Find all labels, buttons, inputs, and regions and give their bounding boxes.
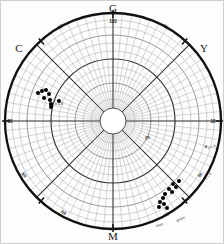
grid-spoke <box>126 93 218 118</box>
grid-spoke <box>44 131 105 204</box>
data-point <box>48 98 52 102</box>
grid-spoke <box>120 33 174 111</box>
grid-spoke <box>5 112 100 120</box>
grid-spoke <box>44 38 105 111</box>
grid-spoke <box>5 122 100 130</box>
data-point <box>167 187 171 191</box>
chart-annotation: blue <box>156 222 164 228</box>
data-point <box>36 91 40 95</box>
grid-spoke <box>126 124 218 149</box>
data-point <box>157 205 161 209</box>
grid-spoke <box>85 134 110 226</box>
center-hub-circle <box>100 108 126 134</box>
grid-spoke <box>123 52 196 113</box>
data-point <box>174 185 178 189</box>
grid-spoke <box>117 20 149 109</box>
grid-spoke <box>114 13 122 108</box>
grid-spoke <box>9 124 101 149</box>
chart-annotation: n = 8 <box>55 102 63 106</box>
cardinal-label-m: M <box>108 230 118 242</box>
grid-spoke <box>121 38 182 111</box>
grid-spoke <box>123 129 196 190</box>
polar-chromaticity-diagram: 10050505010050505050050 n = 9n = 9bluegr… <box>1 1 224 244</box>
grid-spoke <box>124 128 202 182</box>
axis-tick-label: 100 <box>109 19 117 24</box>
chart-canvas: 10050505010050505050050 n = 9n = 9bluegr… <box>0 0 224 244</box>
grid-spoke <box>117 133 149 222</box>
grid-spoke <box>25 128 103 182</box>
data-point <box>161 196 165 200</box>
grid-spoke <box>104 134 112 229</box>
grid-spoke <box>114 134 122 229</box>
grid-spoke <box>51 132 105 210</box>
grid-spoke <box>125 125 214 157</box>
grid-spoke <box>30 52 103 113</box>
grid-spoke <box>125 84 214 116</box>
data-point <box>162 202 166 206</box>
data-point <box>44 88 48 92</box>
data-point <box>177 179 181 183</box>
axis-tick-label: 50 <box>196 171 203 178</box>
grid-spoke <box>126 122 221 130</box>
grid-spoke <box>104 13 112 108</box>
grid-spoke <box>12 84 101 116</box>
cardinal-label-c: C <box>15 42 22 54</box>
grid-spoke <box>12 125 101 157</box>
data-point <box>170 190 174 194</box>
center-hub <box>100 108 126 134</box>
cardinal-label-g: G <box>109 2 117 14</box>
grid-spoke <box>85 17 110 109</box>
grid-spoke <box>120 132 174 210</box>
axis-tick-label: 50 <box>144 134 151 141</box>
cardinal-label-y: Y <box>200 42 208 54</box>
grid-spoke <box>30 129 103 190</box>
grid-spoke <box>124 59 202 113</box>
data-point <box>40 89 44 93</box>
grid-spoke <box>126 112 221 120</box>
data-point <box>47 92 51 96</box>
axis-tick-label: 50 <box>7 119 13 124</box>
grid-spoke <box>51 33 105 111</box>
chart-annotation: n = 9 <box>204 172 212 181</box>
data-point <box>171 182 175 186</box>
series-cluster-lower-right <box>157 179 181 210</box>
data-point <box>163 192 167 196</box>
data-point <box>158 200 162 204</box>
chart-annotation: green <box>176 215 186 222</box>
data-point <box>49 105 53 109</box>
grid-spoke <box>76 133 108 222</box>
grid-spoke <box>25 59 103 113</box>
grid-spoke <box>76 20 108 109</box>
data-point <box>165 206 169 210</box>
grid-spoke <box>116 134 141 226</box>
axis-tick-label: 10 <box>210 119 216 124</box>
data-point <box>42 96 46 100</box>
grid-spoke <box>116 17 141 109</box>
chart-annotation: n = 9 <box>207 144 216 151</box>
